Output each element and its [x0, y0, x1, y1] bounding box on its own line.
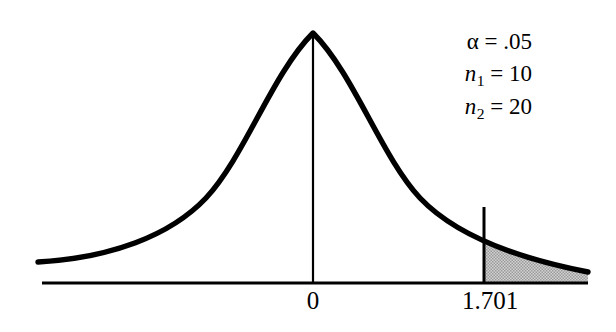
n2-value: 20	[509, 94, 532, 119]
axis-tick-label-zero: 0	[283, 288, 343, 313]
n2-equals: =	[485, 94, 509, 119]
annotation-alpha: α = .05	[370, 26, 532, 58]
parameter-annotations: α = .05 n1 = 10 n2 = 20	[370, 26, 532, 125]
alpha-equals: =	[479, 29, 503, 54]
alpha-value: .05	[503, 29, 532, 54]
n2-subscript: 2	[476, 105, 484, 122]
n2-symbol: n	[465, 94, 477, 119]
n1-value: 10	[509, 61, 532, 86]
alpha-symbol: α	[467, 29, 479, 54]
annotation-n2: n2 = 20	[370, 91, 532, 125]
n1-subscript: 1	[476, 72, 484, 89]
annotation-n1: n1 = 10	[370, 58, 532, 92]
n1-equals: =	[485, 61, 509, 86]
distribution-figure: 0 1.701 α = .05 n1 = 10 n2 = 20	[0, 0, 616, 332]
axis-tick-label-critical-value: 1.701	[440, 288, 540, 313]
n1-symbol: n	[465, 61, 477, 86]
